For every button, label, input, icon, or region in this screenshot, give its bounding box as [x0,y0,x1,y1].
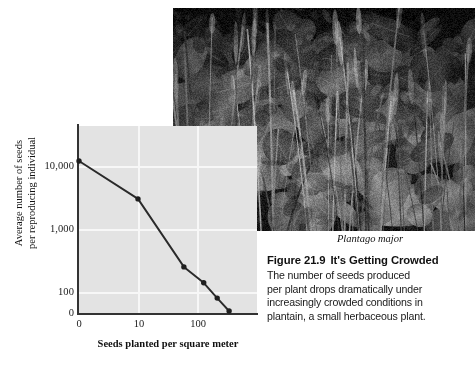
gridline-x-10 [138,126,140,313]
caption-line-4: plantain, a small herbaceous plant. [267,310,472,324]
y-axis-label-line1: Average number of seeds [12,113,25,273]
x-axis-line [77,313,258,315]
x-tick-10: 10 [119,318,159,329]
x-tick-0: 0 [59,318,99,329]
caption-number: Figure 21.9 [267,254,326,266]
y-axis-label: Average number of seeds per reproducing … [12,113,38,273]
figure-caption: Figure 21.9It's Getting Crowded The numb… [267,254,472,323]
caption-title: It's Getting Crowded [331,254,439,266]
caption-line-3: increasingly crowded conditions in [267,296,472,310]
gridline-x-100 [197,126,199,313]
caption-line-2: per plant drops dramatically under [267,283,472,297]
x-axis-label: Seeds planted per square meter [63,338,273,349]
gridline-y-100 [79,292,257,294]
caption-line-1: The number of seeds produced [267,269,472,283]
plot-area [79,126,257,313]
x-tick-100: 100 [178,318,218,329]
gridline-y-1000 [79,229,257,231]
caption-title-row: Figure 21.9It's Getting Crowded [267,254,472,266]
y-tick-0: 0 [30,307,74,318]
figure-panel: 10,000 1,000 100 0 0 10 100 Average numb… [0,0,475,368]
caption-body: The number of seeds produced per plant d… [267,269,472,323]
species-label: Plantago major [300,233,440,244]
y-axis-line [77,124,79,315]
gridline-y-10000 [79,166,257,168]
y-axis-label-line2: per reproducing individual [25,113,38,273]
y-tick-100: 100 [30,286,74,297]
